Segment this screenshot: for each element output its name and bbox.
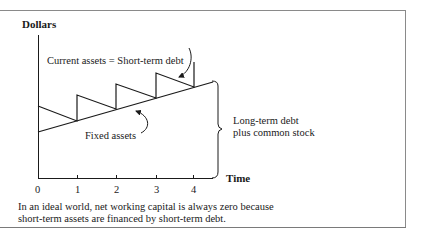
fixed-assets-line [38,82,213,132]
current-assets-label: Current assets = Short-term debt [47,55,184,67]
x-axis-label: Time [226,172,250,184]
y-axis-label: Dollars [22,18,56,30]
tick-label-4: 4 [191,184,196,196]
tick-label-0: 0 [35,184,40,196]
current-assets-sawtooth [38,62,194,121]
tick-label-3: 3 [154,184,159,196]
caption-line-2: short-term assets are financed by short-… [18,213,226,225]
caption-line-1: In an ideal world, net working capital i… [18,201,274,213]
tick-label-1: 1 [75,184,80,196]
brace-label-line1: Long-term debt [233,115,299,127]
brace-label-line2: plus common stock [233,127,315,139]
fixed-assets-label: Fixed assets [85,130,136,142]
x-axis-ticks [78,175,194,178]
tick-label-2: 2 [114,184,119,196]
fixed-assets-arrow [136,111,148,133]
brace-icon [212,81,222,178]
